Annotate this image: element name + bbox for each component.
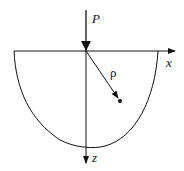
half-space-diagram: P x z ρ	[0, 0, 184, 171]
radius-label: ρ	[110, 66, 117, 79]
x-axis-label: x	[166, 56, 172, 69]
force-label: P	[92, 12, 100, 25]
z-axis-label: z	[92, 151, 97, 164]
field-point	[118, 99, 122, 103]
